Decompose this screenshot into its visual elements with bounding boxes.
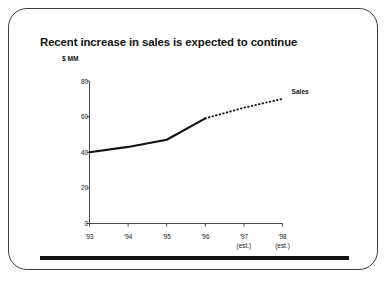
x-tick-year: '98	[278, 233, 286, 240]
x-tick-label: '95	[147, 233, 187, 242]
x-tick-year: '93	[85, 233, 93, 240]
x-tick-year: '97	[240, 233, 248, 240]
y-tick-label: 20	[71, 184, 88, 191]
line-chart: $ MM 0 20 40 60 80 '93 '94 '95 '96 '97 (…	[9, 9, 378, 270]
x-tick-label: '96	[185, 233, 225, 242]
footer-rule	[40, 256, 349, 260]
y-axis-unit-label: $ MM	[62, 55, 78, 62]
x-tick-year: '94	[124, 233, 132, 240]
x-tick-label: '97 (est.)	[224, 233, 264, 250]
x-tick-label: '93	[70, 233, 110, 242]
x-tick-note: (est.)	[224, 242, 264, 251]
y-tick-label: 60	[71, 113, 88, 120]
y-tick-label: 80	[71, 78, 88, 85]
x-tick-label: '94	[108, 233, 148, 242]
series-label-sales: Sales	[292, 88, 309, 95]
series-line-actual	[90, 118, 206, 152]
x-tick-label: '98 (est.)	[263, 233, 303, 250]
y-tick-label: 40	[71, 149, 88, 156]
slide-card: Recent increase in sales is expected to …	[8, 8, 378, 270]
y-tick-label: 0	[71, 220, 88, 227]
x-tick-year: '96	[201, 233, 209, 240]
chart-plot-area	[9, 9, 378, 270]
x-tick-year: '95	[163, 233, 171, 240]
x-tick-note: (est.)	[263, 242, 303, 251]
series-line-forecast	[205, 99, 282, 119]
